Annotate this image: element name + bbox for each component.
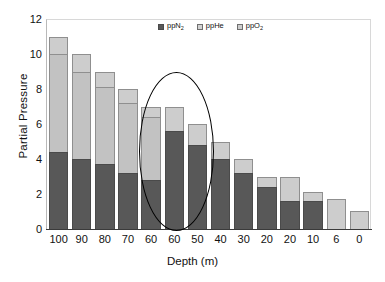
bar-segment-ppO2 xyxy=(211,142,230,160)
x-axis-line xyxy=(46,229,372,230)
bar-slot-50-6 xyxy=(186,19,209,229)
bar-segment-ppN2 xyxy=(49,152,68,229)
y-tick-8: 8 xyxy=(20,84,42,94)
x-tick-20-9: 20 xyxy=(255,233,278,245)
y-tick-0: 0 xyxy=(20,224,42,234)
bar-slot-40-7 xyxy=(209,19,232,229)
bar-segment-ppN2 xyxy=(280,201,299,229)
y-axis-tick-labels: 12 10 8 6 4 2 0 xyxy=(18,0,42,282)
bar-segment-ppN2 xyxy=(95,164,114,229)
chart-figure: Partial Pressure 12 10 8 6 4 2 0 ppN2 pp… xyxy=(0,0,385,282)
bar-slot-60-5 xyxy=(163,19,186,229)
y-tick-6: 6 xyxy=(20,119,42,129)
x-tick-50-6: 50 xyxy=(186,233,209,245)
y-tick-4: 4 xyxy=(20,154,42,164)
bar-segment-ppN2 xyxy=(234,173,253,229)
legend-swatch-ppN2 xyxy=(158,24,164,30)
bar-segment-ppHe xyxy=(72,72,91,160)
bar-segment-ppHe xyxy=(141,117,160,180)
x-tick-80-2: 80 xyxy=(93,233,116,245)
bar-segment-ppO2 xyxy=(95,72,114,88)
x-axis-tick-labels: 100908070606050403020201060 xyxy=(47,233,371,245)
bar-slot-100-0 xyxy=(47,19,70,229)
bar-segment-ppN2 xyxy=(72,159,91,229)
bar-slot-80-2 xyxy=(93,19,116,229)
bar-slot-70-3 xyxy=(116,19,139,229)
stacked-bar[interactable] xyxy=(49,37,68,230)
bar-segment-ppO2 xyxy=(350,211,369,229)
legend-swatch-ppHe xyxy=(197,24,203,30)
stacked-bar[interactable] xyxy=(350,211,369,229)
x-tick-60-5: 60 xyxy=(163,233,186,245)
bar-segment-ppN2 xyxy=(141,180,160,229)
bar-segment-ppHe xyxy=(49,54,68,152)
bar-slot-0-13 xyxy=(348,19,371,229)
bar-segment-ppN2 xyxy=(257,187,276,229)
bar-segment-ppO2 xyxy=(165,107,184,132)
stacked-bar[interactable] xyxy=(72,54,91,229)
x-tick-70-3: 70 xyxy=(116,233,139,245)
x-tick-60-4: 60 xyxy=(140,233,163,245)
x-tick-20-10: 20 xyxy=(278,233,301,245)
bar-segment-ppO2 xyxy=(72,54,91,72)
legend-item-ppO2[interactable]: ppO2 xyxy=(237,22,263,32)
stacked-bar[interactable] xyxy=(303,192,322,229)
stacked-bar[interactable] xyxy=(211,142,230,230)
bar-segment-ppN2 xyxy=(211,159,230,229)
stacked-bar[interactable] xyxy=(141,107,160,230)
legend-label-ppHe: ppHe xyxy=(206,22,224,32)
y-tick-2: 2 xyxy=(20,189,42,199)
bar-segment-ppO2 xyxy=(327,199,346,229)
stacked-bar[interactable] xyxy=(188,124,207,229)
bar-segment-ppO2 xyxy=(188,124,207,145)
bar-slot-60-4 xyxy=(140,19,163,229)
x-tick-0-13: 0 xyxy=(348,233,371,245)
chart-legend: ppN2 ppHe ppO2 xyxy=(158,22,263,32)
bar-segment-ppO2 xyxy=(49,37,68,55)
stacked-bar[interactable] xyxy=(280,177,299,230)
legend-swatch-ppO2 xyxy=(237,24,243,30)
legend-label-ppO2: ppO2 xyxy=(246,22,263,32)
x-axis-title: Depth (m) xyxy=(0,255,385,267)
bar-segment-ppN2 xyxy=(165,131,184,229)
x-tick-40-7: 40 xyxy=(209,233,232,245)
stacked-bar[interactable] xyxy=(165,107,184,230)
legend-item-ppN2[interactable]: ppN2 xyxy=(158,22,184,32)
bar-segment-ppO2 xyxy=(118,89,137,103)
bar-segment-ppN2 xyxy=(188,145,207,229)
legend-item-ppHe[interactable]: ppHe xyxy=(197,22,224,32)
bar-segment-ppO2 xyxy=(141,107,160,118)
stacked-bar[interactable] xyxy=(118,89,137,229)
x-tick-6-12: 6 xyxy=(325,233,348,245)
x-tick-90-1: 90 xyxy=(70,233,93,245)
stacked-bar[interactable] xyxy=(257,177,276,230)
stacked-bar[interactable] xyxy=(95,72,114,230)
legend-label-ppN2: ppN2 xyxy=(167,22,184,32)
bar-segment-ppO2 xyxy=(280,177,299,202)
y-tick-10: 10 xyxy=(20,49,42,59)
stacked-bar[interactable] xyxy=(234,159,253,229)
x-tick-10-11: 10 xyxy=(302,233,325,245)
bar-segment-ppO2 xyxy=(234,159,253,173)
bar-slot-20-10 xyxy=(278,19,301,229)
bar-slot-30-8 xyxy=(232,19,255,229)
y-tick-12: 12 xyxy=(20,14,42,24)
bar-segment-ppN2 xyxy=(118,173,137,229)
x-tick-100-0: 100 xyxy=(47,233,70,245)
bar-segment-ppO2 xyxy=(303,192,322,201)
stacked-bar[interactable] xyxy=(327,199,346,229)
bar-segment-ppHe xyxy=(118,103,137,173)
bar-segment-ppO2 xyxy=(257,177,276,188)
bar-series-group xyxy=(47,19,371,229)
bar-slot-10-11 xyxy=(302,19,325,229)
bar-slot-20-9 xyxy=(255,19,278,229)
bar-slot-6-12 xyxy=(325,19,348,229)
bar-segment-ppN2 xyxy=(303,201,322,229)
x-tick-30-8: 30 xyxy=(232,233,255,245)
bar-segment-ppHe xyxy=(95,87,114,164)
bar-slot-90-1 xyxy=(70,19,93,229)
